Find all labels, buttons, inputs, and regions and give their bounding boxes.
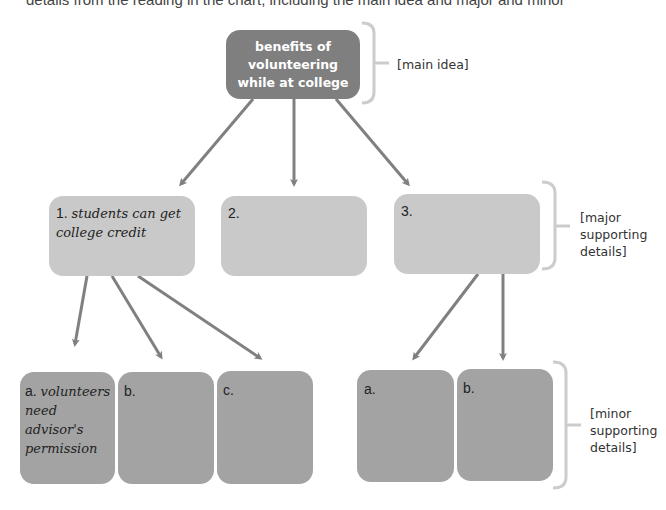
main-idea-box: benefits of volunteering while at colleg… — [226, 30, 360, 99]
minor-detail-box-1c: c. — [217, 371, 313, 484]
major-detail-box-3: 3. — [394, 194, 540, 274]
minor-letter-1a: a. — [25, 383, 37, 399]
major-detail-text-1: students can get college credit — [56, 206, 181, 240]
minor-letter-3b: b. — [463, 380, 475, 396]
minor-bracket-line-3: details] — [590, 439, 657, 456]
minor-letter-1c: c. — [223, 382, 234, 398]
major-bracket-line-3: details] — [580, 243, 647, 260]
main-idea-text: benefits of volunteering while at colleg… — [232, 38, 354, 92]
minor-letter-3a: a. — [364, 381, 376, 397]
minor-letter-1b: b. — [124, 383, 136, 399]
minor-detail-box-3b: b. — [457, 369, 553, 481]
major-detail-box-2: 2. — [221, 196, 367, 276]
major-number-3: 3. — [401, 203, 413, 219]
minor-bracket-line-1: [minor — [590, 405, 657, 422]
major-bracket-line-2: supporting — [580, 226, 647, 243]
minor-bracket-label: [minor supporting details] — [590, 405, 657, 456]
major-bracket-label: [major supporting details] — [580, 209, 647, 260]
major-number-2: 2. — [228, 205, 240, 221]
main-idea-bracket-label: [main idea] — [397, 56, 469, 73]
major-detail-box-1: 1. students can get college credit — [49, 196, 195, 276]
major-number-1: 1. — [56, 205, 68, 221]
major-bracket-line-1: [major — [580, 209, 647, 226]
minor-detail-text-1a: volunteers need advisor's permission — [25, 384, 110, 456]
minor-detail-box-1a: a. volunteers need advisor's permission — [20, 372, 115, 484]
minor-bracket-line-2: supporting — [590, 422, 657, 439]
minor-detail-box-3a: a. — [357, 370, 454, 482]
minor-detail-box-1b: b. — [118, 372, 214, 484]
